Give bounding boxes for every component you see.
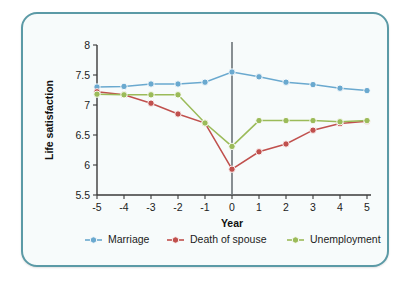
data-point [202,120,208,126]
legend-label: Unemployment [310,233,381,245]
x-axis-title: Year [221,217,243,229]
chart-figure-frame: 5.566.577.58 -5-4-3-2-1012345 YearLife s… [21,12,389,267]
data-point [121,83,127,89]
data-point [256,117,262,123]
data-point [175,111,181,117]
data-point [283,117,289,123]
legend-marker [172,237,178,243]
x-tick-label: 3 [310,201,316,213]
y-tick-label: 5.5 [75,189,90,201]
data-point [229,166,235,172]
x-tick-label: 5 [364,201,370,213]
y-tick-label: 7 [84,99,90,111]
x-tick-label: 2 [283,201,289,213]
x-tick-label: -2 [173,201,182,213]
legend-label: Marriage [108,233,150,245]
data-point [283,141,289,147]
data-point [148,92,154,98]
data-point [175,92,181,98]
data-point [364,117,370,123]
y-axis: 5.566.577.58 [75,39,97,201]
x-tick-label: 0 [229,201,235,213]
legend-label: Death of spouse [190,233,267,245]
legend-marker [292,237,298,243]
x-tick-label: -1 [200,201,209,213]
x-tick-label: -4 [119,201,128,213]
data-point [310,127,316,133]
data-point [202,79,208,85]
data-point [148,81,154,87]
data-point [121,92,127,98]
data-point [229,143,235,149]
legend-marker [90,237,96,243]
y-tick-label: 8 [84,39,90,51]
x-axis: -5-4-3-2-1012345 [92,195,371,213]
axis-titles: YearLife satisfaction [43,80,243,229]
data-point [94,91,100,97]
data-point [310,117,316,123]
life-satisfaction-line-chart: 5.566.577.58 -5-4-3-2-1012345 YearLife s… [23,14,391,269]
data-point [337,119,343,125]
y-tick-label: 6 [84,159,90,171]
x-tick-label: 1 [256,201,262,213]
legend-item-unemployment[interactable]: Unemployment [287,233,381,245]
y-tick-label: 7.5 [75,69,90,81]
data-point [229,69,235,75]
x-tick-label: -5 [92,201,101,213]
x-tick-label: -3 [146,201,155,213]
y-axis-title: Life satisfaction [43,80,55,160]
legend-item-marriage[interactable]: Marriage [85,233,150,245]
y-tick-label: 6.5 [75,129,90,141]
plot-area-wrapper: 5.566.577.58 -5-4-3-2-1012345 YearLife s… [23,14,391,269]
data-point [310,81,316,87]
chart-legend: MarriageDeath of spouseUnemployment [85,233,381,245]
legend-item-death-of-spouse[interactable]: Death of spouse [167,233,267,245]
data-point [364,87,370,93]
data-point [256,74,262,80]
data-point [256,149,262,155]
data-point [337,85,343,91]
data-point [283,79,289,85]
data-point [175,81,181,87]
data-point [148,100,154,106]
x-tick-label: 4 [337,201,343,213]
